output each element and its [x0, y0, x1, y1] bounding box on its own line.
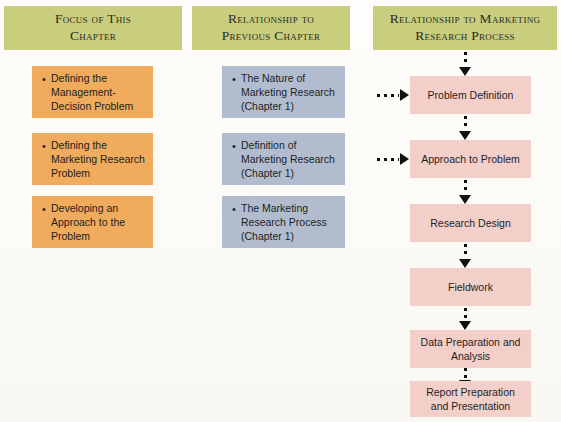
column-header-relationship-to-previous-chapter: Relationship to Previous Chapter	[192, 6, 350, 50]
column-header-line1: Focus of This	[55, 11, 131, 28]
process-step-research-design: Research Design	[410, 204, 531, 242]
diagram-canvas: Focus of This Chapter Relationship to Pr…	[0, 0, 561, 422]
list-item: • Defining the Management-Decision Probl…	[32, 66, 153, 118]
bullet-icon: •	[42, 202, 51, 217]
column-header-relationship-to-marketing-research-process: Relationship to Marketing Research Proce…	[373, 6, 557, 50]
process-step-approach-to-problem: Approach to Problem	[410, 140, 531, 178]
list-item: • The Marketing Research Process (Chapte…	[222, 196, 345, 248]
column-header-line2: Research Process	[390, 28, 541, 45]
flow-arrow-down-icon	[458, 308, 472, 330]
bullet-icon: •	[42, 139, 51, 154]
column-header-line1: Relationship to Marketing	[390, 11, 541, 28]
bullet-icon: •	[42, 72, 51, 87]
process-step-fieldwork: Fieldwork	[410, 268, 531, 306]
process-step-label: Fieldwork	[448, 280, 493, 294]
column-header-focus-of-this-chapter: Focus of This Chapter	[4, 6, 182, 50]
flow-arrow-down-icon	[458, 180, 472, 204]
list-item: • Developing an Approach to the Problem	[32, 196, 153, 248]
list-item-label: The Nature of Marketing Research (Chapte…	[241, 71, 337, 114]
process-step-label: Problem Definition	[428, 88, 514, 102]
column-header-line1: Relationship to	[222, 11, 321, 28]
list-item-label: Defining the Marketing Research Problem	[51, 138, 145, 181]
bullet-icon: •	[232, 72, 241, 87]
list-item-label: The Marketing Research Process (Chapter …	[241, 201, 337, 244]
list-item-label: Defining the Management-Decision Problem	[51, 71, 145, 114]
process-step-label: Approach to Problem	[421, 152, 520, 166]
list-item: • Defining the Marketing Research Proble…	[32, 133, 153, 185]
flow-arrow-down-icon	[458, 244, 472, 268]
process-step-label: Report Preparation and Presentation	[416, 385, 525, 413]
flow-arrow-down-icon	[458, 116, 472, 140]
process-step-label: Data Preparation and Analysis	[416, 335, 525, 363]
column-header-line2: Previous Chapter	[222, 28, 321, 45]
process-step-data-preparation-and-analysis: Data Preparation and Analysis	[410, 330, 531, 368]
process-step-problem-definition: Problem Definition	[410, 76, 531, 114]
list-item: • The Nature of Marketing Research (Chap…	[222, 66, 345, 118]
list-item-label: Developing an Approach to the Problem	[51, 201, 145, 244]
list-item: • Definition of Marketing Research (Chap…	[222, 133, 345, 185]
flow-arrow-right-icon	[377, 89, 409, 101]
list-item-label: Definition of Marketing Research (Chapte…	[241, 138, 337, 181]
flow-arrow-right-icon	[377, 153, 409, 165]
bullet-icon: •	[232, 202, 241, 217]
bullet-icon: •	[232, 139, 241, 154]
flow-arrow-down-icon	[458, 52, 472, 76]
process-step-report-preparation-and-presentation: Report Preparation and Presentation	[410, 381, 531, 417]
process-step-label: Research Design	[430, 216, 511, 230]
column-header-line2: Chapter	[55, 28, 131, 45]
